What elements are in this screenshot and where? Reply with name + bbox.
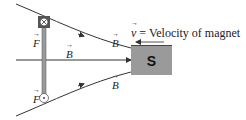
field-label-bottom: B [112, 80, 119, 91]
current-out-of-page-icon [40, 94, 49, 103]
current-into-page-icon [38, 16, 50, 28]
velocity-label: v = Velocity of magnet [131, 26, 240, 41]
field-label-middle: B [66, 49, 73, 60]
field-label-top: B [112, 38, 119, 49]
conducting-rod [42, 22, 46, 96]
force-label-bottom: F [33, 94, 40, 105]
force-label-top: F [33, 38, 40, 49]
magnet-south-pole: S [131, 45, 172, 75]
